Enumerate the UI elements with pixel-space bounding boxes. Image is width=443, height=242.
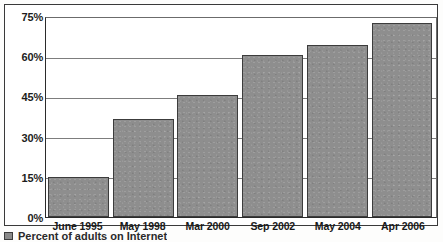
bar-may-2004[interactable] <box>307 45 368 217</box>
y-tick-label: 30% <box>7 133 43 143</box>
bar-sep-2002[interactable] <box>242 55 303 217</box>
bar-slot-1 <box>113 18 174 217</box>
chart-legend: Percent of adults on Internet <box>4 231 167 242</box>
x-tick-label-apr-2006: Apr 2006 <box>372 220 433 232</box>
bar-slot-0 <box>48 18 109 217</box>
x-tick-label-sep-2002: Sep 2002 <box>242 220 303 232</box>
bar-slot-2 <box>177 18 238 217</box>
y-tick-label: 75% <box>7 12 43 22</box>
bar-mar-2000[interactable] <box>177 95 238 217</box>
bar-chart-figure: 75% 60% 45% 30% 15% 0% <box>0 0 443 242</box>
y-tick-label: 0% <box>7 213 43 223</box>
legend-label: Percent of adults on Internet <box>18 231 167 242</box>
bar-slot-5 <box>372 18 433 217</box>
bar-slot-3 <box>242 18 303 217</box>
y-axis: 75% 60% 45% 30% 15% 0% <box>5 17 43 218</box>
y-tick-label: 60% <box>7 52 43 62</box>
legend-color-swatch-icon <box>4 232 13 240</box>
plot-inner <box>45 17 437 218</box>
y-tick-label: 15% <box>7 173 43 183</box>
bar-apr-2006[interactable] <box>372 23 433 217</box>
plot-area <box>45 17 437 218</box>
x-tick-label-mar-2000: Mar 2000 <box>177 220 238 232</box>
y-tick-label: 45% <box>7 92 43 102</box>
bar-june-1995[interactable] <box>48 177 109 217</box>
bar-slot-4 <box>307 18 368 217</box>
chart-frame: 75% 60% 45% 30% 15% 0% <box>4 4 438 226</box>
x-tick-label-may-2004: May 2004 <box>307 220 368 232</box>
bar-may-1998[interactable] <box>113 119 174 217</box>
